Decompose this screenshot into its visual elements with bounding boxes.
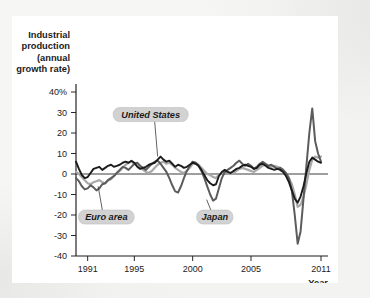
annotation-leader-united-states bbox=[155, 122, 158, 157]
annotation-leader-euro-area bbox=[98, 186, 102, 210]
y-axis-title-line: growth rate) bbox=[16, 64, 70, 74]
line-chart: Industrialproduction(annualgrowth rate)4… bbox=[12, 16, 338, 283]
x-axis: 19911995200020052011 bbox=[78, 256, 331, 274]
x-tick-label: 1995 bbox=[124, 264, 144, 274]
y-tick-label: -30 bbox=[54, 231, 67, 241]
annotation-leader-japan bbox=[207, 200, 211, 210]
y-tick-label: 20 bbox=[57, 128, 67, 138]
y-axis-title: Industrialproduction(annualgrowth rate) bbox=[16, 30, 70, 74]
y-tick-label: -20 bbox=[54, 210, 67, 220]
x-tick-label: 1991 bbox=[78, 264, 98, 274]
y-axis-title-line: production bbox=[21, 41, 70, 51]
y-tick-label: -10 bbox=[54, 190, 67, 200]
y-axis-title-line: (annual bbox=[37, 53, 70, 63]
y-tick-label: 30 bbox=[57, 108, 67, 118]
y-tick-label: -40 bbox=[54, 251, 67, 261]
y-axis: 40%3020100-10-20-30-40 bbox=[49, 87, 76, 261]
x-tick-label: 2005 bbox=[241, 264, 261, 274]
x-tick-label: 2000 bbox=[183, 264, 203, 274]
x-axis-title: Year bbox=[308, 278, 328, 283]
annotation-label-united-states: United States bbox=[121, 110, 180, 120]
y-tick-label: 10 bbox=[57, 149, 67, 159]
x-tick-label: 2011 bbox=[311, 264, 330, 274]
y-tick-label: 0 bbox=[62, 169, 67, 179]
annotation-label-euro-area: Euro area bbox=[85, 212, 127, 222]
chart-figure: Industrialproduction(annualgrowth rate)4… bbox=[12, 16, 338, 283]
chart-card: Industrialproduction(annualgrowth rate)4… bbox=[12, 16, 338, 283]
y-axis-title-line: Industrial bbox=[28, 30, 70, 40]
annotation-label-japan: Japan bbox=[202, 212, 229, 222]
y-tick-label: 40% bbox=[49, 87, 67, 97]
series-line-euro-area bbox=[76, 157, 321, 207]
